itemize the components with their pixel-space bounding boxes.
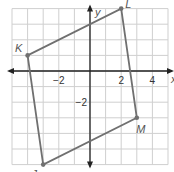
x-axis-label: x bbox=[170, 73, 174, 85]
vertex-point-l bbox=[119, 6, 124, 11]
y-tick-label: −2 bbox=[76, 97, 88, 108]
x-tick-label: 2 bbox=[118, 75, 124, 86]
vertex-label-l: L bbox=[125, 0, 131, 10]
x-axis-arrow-left-icon bbox=[7, 68, 14, 74]
vertex-label-k: K bbox=[15, 42, 23, 54]
vertex-point-m bbox=[135, 116, 140, 121]
vertex-point-k bbox=[25, 53, 30, 58]
x-tick-label: 4 bbox=[150, 75, 156, 86]
x-tick-label: −2 bbox=[53, 75, 65, 86]
y-axis-label: y bbox=[94, 6, 102, 18]
vertex-label-m: M bbox=[136, 123, 146, 135]
vertex-label-j: J bbox=[30, 168, 37, 172]
coordinate-plane: xy−224−2KLMJ bbox=[0, 0, 174, 172]
vertex-point-j bbox=[41, 162, 46, 167]
